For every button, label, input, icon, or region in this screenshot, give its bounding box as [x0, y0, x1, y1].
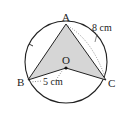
bo-dotted-leader	[30, 81, 42, 82]
center-point	[64, 66, 67, 69]
label-c: C	[108, 77, 115, 89]
ac-leader	[95, 34, 97, 42]
tick-mark	[29, 44, 33, 46]
label-b: B	[17, 76, 24, 88]
label-bo-length: 5 cm	[43, 76, 63, 87]
label-a: A	[62, 11, 70, 23]
label-ac-length: 8 cm	[92, 22, 112, 33]
geometry-figure: A B C O 8 cm 5 cm	[0, 0, 124, 123]
label-o: O	[62, 54, 70, 66]
